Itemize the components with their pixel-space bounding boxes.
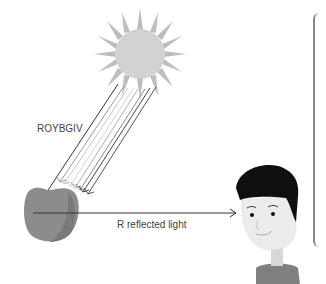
incident-light-label: ROYBGIV xyxy=(37,123,83,134)
diagram-canvas xyxy=(0,0,326,284)
light-reflection-diagram: ROYBGIV R reflected light xyxy=(0,0,326,284)
reflected-light-label: R reflected light xyxy=(117,219,186,230)
sun-icon xyxy=(94,8,186,100)
person-icon xyxy=(236,165,300,284)
side-panel-edge xyxy=(313,13,326,247)
apple-icon xyxy=(24,188,79,242)
